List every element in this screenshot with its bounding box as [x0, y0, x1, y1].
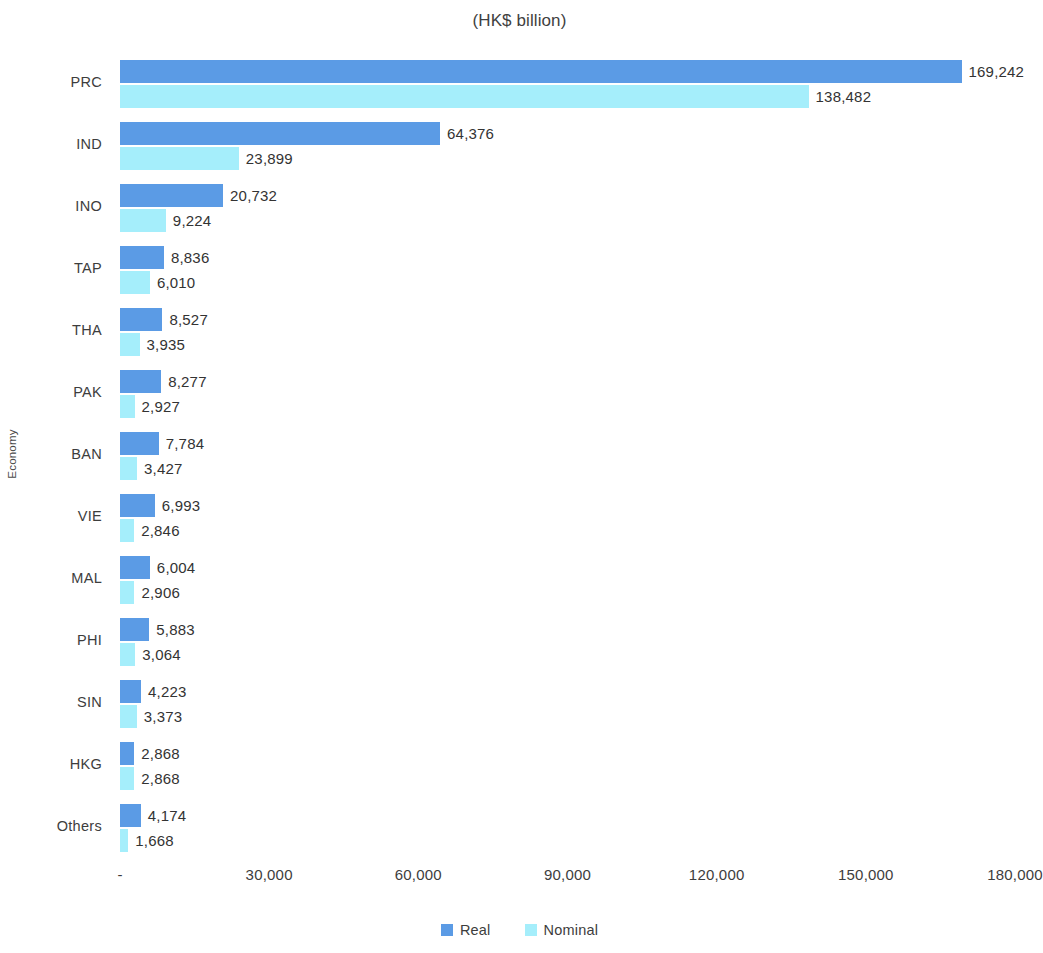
y-axis-tick-sin: SIN	[2, 694, 102, 710]
bar-real-phi	[120, 618, 149, 641]
chart-category-row: SIN4,2233,373	[120, 680, 1015, 728]
bar-real-others	[120, 804, 141, 827]
bar-value-label: 2,927	[142, 395, 181, 418]
bar-value-label: 4,174	[148, 804, 187, 827]
x-axis-tick-0: -	[117, 866, 122, 883]
bar-real-ind	[120, 122, 440, 145]
y-axis-tick-hkg: HKG	[2, 756, 102, 772]
chart-category-row: PRC169,242138,482	[120, 60, 1015, 108]
chart-category-row: BAN7,7843,427	[120, 432, 1015, 480]
y-axis-tick-pak: PAK	[2, 384, 102, 400]
bar-real-tap	[120, 246, 164, 269]
bar-value-label: 6,010	[157, 271, 196, 294]
y-axis-tick-ino: INO	[2, 198, 102, 214]
bar-value-label: 3,427	[144, 457, 183, 480]
bar-value-label: 3,373	[144, 705, 183, 728]
chart-legend: RealNominal	[0, 922, 1039, 938]
y-axis-tick-ind: IND	[2, 136, 102, 152]
bar-nominal-mal	[120, 581, 134, 604]
chart-category-row: PHI5,8833,064	[120, 618, 1015, 666]
bar-value-label: 8,836	[171, 246, 210, 269]
bar-nominal-pak	[120, 395, 135, 418]
legend-swatch-icon	[441, 924, 453, 936]
bar-value-label: 2,906	[141, 581, 180, 604]
chart-category-row: INO20,7329,224	[120, 184, 1015, 232]
chart-category-row: HKG2,8682,868	[120, 742, 1015, 790]
legend-swatch-icon	[525, 924, 537, 936]
y-axis-tick-tha: THA	[2, 322, 102, 338]
bar-value-label: 2,868	[141, 767, 180, 790]
bar-real-tha	[120, 308, 162, 331]
bar-value-label: 5,883	[156, 618, 195, 641]
y-axis-tick-prc: PRC	[2, 74, 102, 90]
x-axis-tick-4: 120,000	[689, 866, 745, 883]
plot-area: PRC169,242138,482IND64,37623,899INO20,73…	[120, 58, 1015, 863]
x-axis-tick-labels: -30,00060,00090,000120,000150,000180,000	[120, 866, 1015, 892]
x-axis-tick-6: 180,000	[987, 866, 1043, 883]
bar-real-sin	[120, 680, 141, 703]
bar-real-hkg	[120, 742, 134, 765]
bar-value-label: 4,223	[148, 680, 187, 703]
bar-value-label: 7,784	[166, 432, 205, 455]
bar-value-label: 8,277	[168, 370, 207, 393]
y-axis-tick-tap: TAP	[2, 260, 102, 276]
bar-nominal-tha	[120, 333, 140, 356]
bar-nominal-ban	[120, 457, 137, 480]
chart-subtitle: (HK$ billion)	[0, 11, 1039, 31]
bar-value-label: 3,064	[142, 643, 181, 666]
y-axis-tick-mal: MAL	[2, 570, 102, 586]
chart-category-row: VIE6,9932,846	[120, 494, 1015, 542]
bar-value-label: 20,732	[230, 184, 277, 207]
bar-nominal-tap	[120, 271, 150, 294]
bar-value-label: 2,868	[141, 742, 180, 765]
y-axis-tick-vie: VIE	[2, 508, 102, 524]
chart-category-row: Others4,1741,668	[120, 804, 1015, 852]
bar-value-label: 6,004	[157, 556, 196, 579]
legend-item-nominal[interactable]: Nominal	[525, 922, 599, 938]
x-axis-line	[120, 862, 1015, 863]
y-axis-tick-others: Others	[2, 818, 102, 834]
y-axis-tick-ban: BAN	[2, 446, 102, 462]
chart-category-row: TAP8,8366,010	[120, 246, 1015, 294]
legend-label: Real	[460, 922, 491, 938]
legend-label: Nominal	[544, 922, 599, 938]
bar-value-label: 169,242	[969, 60, 1025, 83]
bar-real-ban	[120, 432, 159, 455]
y-axis-tick-phi: PHI	[2, 632, 102, 648]
chart-category-row: IND64,37623,899	[120, 122, 1015, 170]
chart-category-row: THA8,5273,935	[120, 308, 1015, 356]
bar-value-label: 1,668	[135, 829, 174, 852]
x-axis-tick-5: 150,000	[838, 866, 894, 883]
bar-nominal-others	[120, 829, 128, 852]
bar-nominal-prc	[120, 85, 809, 108]
bar-value-label: 6,993	[162, 494, 201, 517]
bar-nominal-vie	[120, 519, 134, 542]
bar-nominal-sin	[120, 705, 137, 728]
x-axis-tick-3: 90,000	[544, 866, 591, 883]
bar-nominal-ind	[120, 147, 239, 170]
chart-category-row: PAK8,2772,927	[120, 370, 1015, 418]
bar-nominal-hkg	[120, 767, 134, 790]
bar-value-label: 2,846	[141, 519, 180, 542]
bar-nominal-ino	[120, 209, 166, 232]
x-axis-tick-1: 30,000	[246, 866, 293, 883]
bar-real-prc	[120, 60, 962, 83]
bar-value-label: 64,376	[447, 122, 494, 145]
bar-value-label: 3,935	[147, 333, 186, 356]
legend-item-real[interactable]: Real	[441, 922, 491, 938]
x-axis-tick-2: 60,000	[395, 866, 442, 883]
bar-value-label: 23,899	[246, 147, 293, 170]
bar-value-label: 138,482	[816, 85, 872, 108]
bar-value-label: 9,224	[173, 209, 212, 232]
chart-category-row: MAL6,0042,906	[120, 556, 1015, 604]
bar-real-vie	[120, 494, 155, 517]
bar-real-mal	[120, 556, 150, 579]
bar-value-label: 8,527	[169, 308, 208, 331]
bar-nominal-phi	[120, 643, 135, 666]
bar-real-pak	[120, 370, 161, 393]
bar-real-ino	[120, 184, 223, 207]
